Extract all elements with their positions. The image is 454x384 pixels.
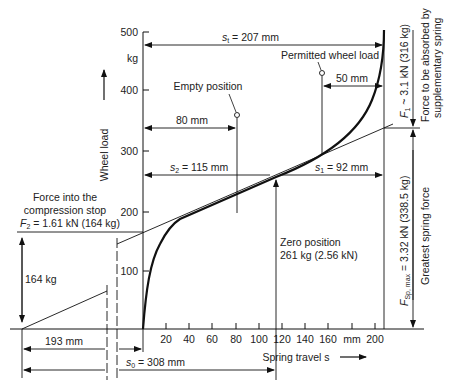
x-tick-labels: 20 40 60 80 100 120 140 160 mm 200 [160, 333, 384, 345]
fsp-label: FSp, max = 3.32 kN (338.5 kg) [398, 176, 412, 306]
svg-text:40: 40 [183, 333, 195, 345]
svg-text:160: 160 [319, 333, 337, 345]
svg-text:100: 100 [250, 333, 268, 345]
dim-164kg-label: 164 kg [25, 273, 57, 285]
tangent-line-extension [22, 291, 107, 329]
tangent-line [117, 124, 393, 244]
fsp-description: Greatest spring force [419, 187, 431, 285]
x-axis-label: Spring travel s [262, 351, 329, 363]
svg-text:200: 200 [366, 333, 384, 345]
stop-label-line2: compression stop [24, 204, 106, 216]
permitted-load-marker-icon [320, 71, 325, 76]
y-tick-300: 300 [120, 145, 138, 157]
dim-s0-label: s0 = 308 mm [126, 356, 185, 369]
dim-80mm-label: 80 mm [176, 114, 208, 126]
y-unit: kg [127, 52, 138, 64]
y-axis-label: Wheel load [98, 129, 110, 182]
stop-label-line1: Force into the [33, 191, 97, 203]
svg-text:80: 80 [230, 333, 242, 345]
zero-position-label: Zero position [280, 236, 341, 248]
spring-characteristic-diagram: 500 kg 400 300 200 100 Wheel load 20 40 … [0, 0, 454, 384]
f1-description-line1: Force to be absorbed by [419, 7, 431, 122]
y-tick-500: 500 [120, 26, 138, 38]
y-tick-100: 100 [120, 265, 138, 277]
y-tick-200: 200 [120, 206, 138, 218]
svg-text:20: 20 [160, 333, 172, 345]
dim-s1-label: s1 = 92 mm [315, 161, 368, 174]
svg-text:60: 60 [206, 333, 218, 345]
x-axis [10, 323, 424, 329]
dim-50mm-label: 50 mm [336, 72, 368, 84]
zero-position-value: 261 kg (2.56 kN) [280, 249, 358, 261]
f1-label: F1 ~ 3.1 kN (316 kg) [398, 24, 411, 118]
dim-s2-label: s2 = 115 mm [170, 161, 229, 174]
svg-text:140: 140 [296, 333, 314, 345]
dim-193mm-label: 193 mm [45, 335, 83, 347]
y-tick-400: 400 [120, 84, 138, 96]
dim-st-label: st = 207 mm [222, 31, 279, 44]
permitted-load-label: Permitted wheel load [281, 49, 379, 61]
empty-position-marker-icon [235, 113, 240, 118]
stop-label-value: F2 = 1.61 kN (164 kg) [20, 217, 120, 230]
empty-position-label: Empty position [174, 80, 243, 92]
svg-text:mm: mm [343, 333, 361, 345]
f1-description-line2: supplementary spring [431, 17, 443, 118]
